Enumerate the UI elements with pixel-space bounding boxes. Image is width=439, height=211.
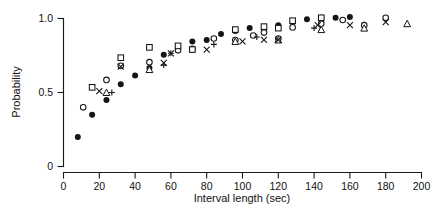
series-filled-circle	[75, 14, 353, 140]
data-point	[204, 37, 210, 43]
data-point	[80, 105, 86, 111]
data-point	[304, 16, 310, 22]
series-cross-x	[96, 19, 388, 94]
data-point	[333, 15, 339, 21]
data-point	[347, 22, 353, 28]
y-axis-title: Probability	[10, 66, 22, 118]
x-tick-label: 80	[201, 180, 213, 192]
data-point	[211, 36, 217, 42]
data-point	[240, 38, 246, 44]
data-point	[96, 88, 102, 94]
data-point	[211, 41, 217, 47]
data-point	[261, 37, 267, 43]
y-tick-group: 00.51.0	[38, 12, 63, 172]
data-point	[189, 38, 195, 44]
x-tick-label: 20	[93, 180, 105, 192]
data-point	[89, 112, 95, 118]
x-tick-label: 180	[377, 180, 395, 192]
data-point	[204, 47, 210, 53]
data-point	[276, 25, 282, 31]
data-point	[118, 55, 124, 61]
x-tick-label: 0	[61, 180, 67, 192]
data-point	[147, 59, 153, 65]
data-point	[261, 30, 267, 36]
data-point	[318, 26, 325, 32]
data-point-group	[75, 14, 411, 140]
x-tick-label: 140	[305, 180, 323, 192]
data-point	[161, 52, 167, 58]
x-tick-label: 40	[129, 180, 141, 192]
x-tick-label: 160	[341, 180, 359, 192]
data-point	[161, 62, 167, 68]
data-point	[233, 27, 239, 33]
data-point	[404, 20, 411, 26]
data-point	[347, 14, 353, 20]
x-tick-label: 100	[234, 180, 252, 192]
series-open-square	[89, 15, 324, 90]
data-point	[147, 45, 153, 51]
data-point	[218, 31, 224, 37]
data-point	[118, 81, 124, 87]
data-point	[247, 25, 253, 31]
x-tick-label: 60	[165, 180, 177, 192]
x-tick-label: 200	[413, 180, 431, 192]
data-point	[104, 77, 110, 83]
data-point	[261, 24, 267, 30]
data-point	[75, 134, 81, 140]
x-tick-label: 120	[270, 180, 288, 192]
data-point	[318, 15, 324, 21]
series-open-triangle	[103, 20, 411, 95]
data-point	[132, 72, 138, 78]
data-point	[290, 18, 296, 24]
y-tick-label: 1.0	[38, 12, 53, 24]
x-axis-title: Interval length (sec)	[194, 192, 291, 204]
data-point	[89, 85, 95, 91]
data-point	[175, 43, 181, 49]
y-tick-label: 0.5	[38, 86, 53, 98]
data-point	[290, 25, 296, 31]
data-point	[190, 47, 196, 53]
x-tick-group: 020406080100120140160180200	[61, 173, 431, 193]
data-point	[103, 97, 109, 103]
scatter-plot: 00.51.0 020406080100120140160180200 Prob…	[0, 0, 439, 211]
figure-container: 00.51.0 020406080100120140160180200 Prob…	[0, 0, 439, 211]
data-point	[340, 17, 346, 23]
y-tick-label: 0	[47, 160, 53, 172]
